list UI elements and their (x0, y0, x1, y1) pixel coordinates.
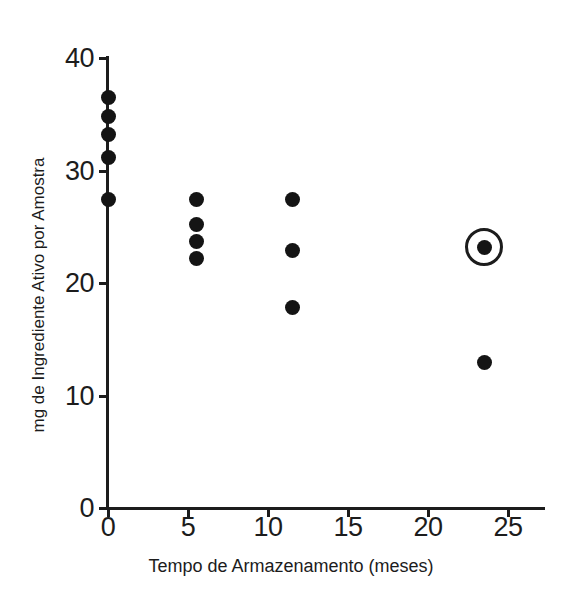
y-tick-label: 10 (65, 380, 94, 411)
y-axis-title: mg de Ingrediente Ativo por Amostra (29, 135, 49, 455)
plot-area: 010203040 0510152025 Tempo de Armazename… (0, 0, 582, 606)
x-tick-label: 10 (253, 512, 282, 543)
x-tick-label: 5 (181, 512, 196, 543)
y-tick-mark (99, 57, 106, 60)
x-tick-label: 20 (413, 512, 442, 543)
x-tick-label: 15 (333, 512, 362, 543)
data-point (285, 243, 300, 258)
y-axis-line (106, 56, 109, 510)
data-point (101, 150, 116, 165)
y-tick-label: 40 (65, 43, 94, 74)
scatter-plot-figure: 010203040 0510152025 Tempo de Armazename… (0, 0, 582, 606)
y-tick-mark (99, 170, 106, 173)
data-point (101, 90, 116, 105)
x-tick-label: 0 (101, 512, 116, 543)
data-point (189, 234, 204, 249)
x-axis-line (106, 507, 545, 510)
data-point (189, 217, 204, 232)
data-point (189, 192, 204, 207)
x-tick-label: 25 (493, 512, 522, 543)
data-point (101, 109, 116, 124)
y-tick-label: 30 (65, 155, 94, 186)
data-point (101, 192, 116, 207)
y-tick-label: 0 (79, 493, 94, 524)
y-tick-mark (99, 282, 106, 285)
data-point (285, 192, 300, 207)
data-point (285, 300, 300, 315)
data-point (477, 355, 492, 370)
x-axis-title: Tempo de Armazenamento (meses) (0, 556, 582, 577)
y-tick-label: 20 (65, 268, 94, 299)
data-point-highlighted (477, 240, 492, 255)
data-point (101, 127, 116, 142)
y-tick-mark (99, 507, 106, 510)
data-point (189, 251, 204, 266)
y-tick-mark (99, 395, 106, 398)
